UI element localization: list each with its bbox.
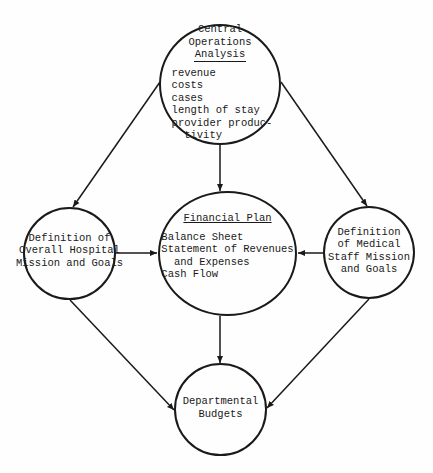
departmental-budgets-label: Departmental Budgets [183,395,259,420]
arrow-hospital-to-budgets [70,300,174,410]
arrow-central-to-hospital [73,82,160,207]
financial-plan-node: Financial Plan Balance Sheet Statement o… [158,191,297,316]
arrow-central-to-medical [281,82,367,206]
departmental-budgets-node: Departmental Budgets [174,363,267,456]
hospital-mission-node: Definition of Overall Hospital Mission a… [23,207,116,300]
arrow-medical-to-budgets [267,299,369,408]
medical-staff-mission-node: Definition of Medical Staff Mission and … [323,206,415,299]
central-operations-analysis-node: Central Operations Analysis revenue cost… [159,24,281,145]
financial-plan-title: Financial Plan [183,212,271,225]
central-operations-items: revenue costs cases length of stay provi… [172,67,273,142]
hospital-mission-label: Definition of Overall Hospital Mission a… [16,232,123,270]
central-operations-title: Central Operations Analysis [188,23,251,61]
financial-plan-items: Balance Sheet Statement of Revenues and … [161,231,293,281]
medical-staff-mission-label: Definition of Medical Staff Mission and … [328,226,410,276]
